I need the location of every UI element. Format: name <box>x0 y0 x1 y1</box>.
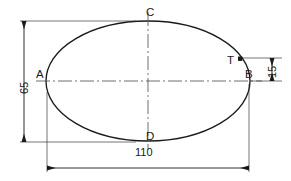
dimension-label-height: 65 <box>19 82 30 94</box>
point-label-d: D <box>146 131 154 143</box>
point-label-b: B <box>245 69 253 81</box>
engineering-drawing-canvas: A B C D T 65 110 15 <box>0 0 291 181</box>
point-label-c: C <box>146 7 154 19</box>
dimension-label-width: 110 <box>135 147 153 158</box>
dimension-label-offset: 15 <box>267 66 278 78</box>
point-label-a: A <box>36 69 44 81</box>
tangent-point-marker-icon <box>238 57 242 61</box>
point-label-t: T <box>227 55 234 67</box>
